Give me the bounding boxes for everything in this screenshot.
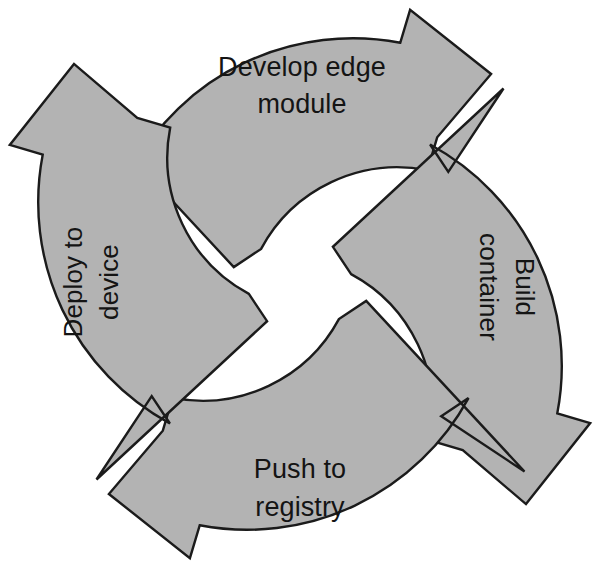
label-line-push-to-registry-2: registry — [255, 492, 345, 522]
label-line-deploy-to-device-2: device — [94, 244, 124, 320]
label-line-build-container-1: Build — [510, 258, 540, 316]
label-line-develop-edge-module-1: Develop edge — [218, 52, 386, 82]
cycle-diagram-canvas: Develop edge module Build container Push… — [0, 0, 596, 563]
cycle-diagram: Develop edge module Build container Push… — [0, 0, 596, 563]
label-line-develop-edge-module-2: module — [257, 89, 346, 119]
label-line-build-container-2: container — [474, 233, 504, 341]
label-line-deploy-to-device-1: Deploy to — [58, 227, 88, 338]
label-line-push-to-registry-1: Push to — [254, 454, 346, 484]
